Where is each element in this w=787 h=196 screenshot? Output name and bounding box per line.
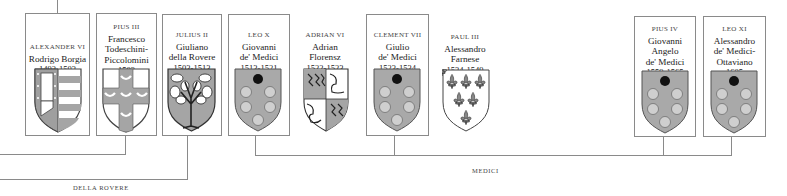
pope-title: PIUS IV bbox=[634, 24, 696, 35]
pope-name-line-2: Farnese bbox=[434, 54, 496, 65]
pope-title: ALEXANDER VI bbox=[25, 42, 90, 53]
della-rovere-horizontal bbox=[0, 179, 188, 180]
pope-name-line-2: de' Medici- bbox=[703, 46, 766, 57]
family-label-medici: MEDICI bbox=[472, 167, 499, 174]
piccolomini-coat-of-arms-icon bbox=[102, 68, 150, 133]
della-rovere-drop bbox=[187, 135, 188, 180]
piccolomini-drop bbox=[125, 135, 126, 155]
medici-drop-clement-vii bbox=[394, 135, 395, 156]
family-label-della-rovere: DELLA ROVERE bbox=[73, 184, 129, 191]
pope-name-line-1: Francesco bbox=[96, 34, 157, 45]
medici-drop-leo-x bbox=[255, 135, 256, 156]
medici-drop-leo-xi bbox=[731, 136, 732, 156]
medici-horizontal bbox=[255, 155, 732, 156]
pope-title: LEO X bbox=[228, 30, 290, 41]
pope-adrian-vi: ADRIAN VI Adrian Florensz 1522-1523 bbox=[294, 30, 356, 73]
pope-title: CLEMENT VII bbox=[366, 30, 429, 41]
pope-name-line-2: Florensz bbox=[294, 52, 356, 63]
pope-leo-x: LEO X Giovanni de' Medici 1513-1521 bbox=[228, 30, 290, 73]
pope-name-line-3: Ottaviano bbox=[703, 57, 766, 68]
medici-palle-coat-of-arms-icon bbox=[641, 70, 689, 134]
pope-name-line-1: Giovanni bbox=[228, 42, 290, 53]
medici-drop-pius-iv bbox=[663, 136, 664, 156]
pope-name: Rodrigo Borgia bbox=[25, 54, 90, 65]
pope-clement-vii: CLEMENT VII Giulio de' Medici 1523-1534 bbox=[366, 30, 429, 73]
pope-name-line-1: Adrian bbox=[294, 42, 356, 53]
pope-name-line-2: Angelo bbox=[634, 46, 696, 57]
pope-name-line-1: Alessandro bbox=[434, 44, 496, 55]
pope-name-line-1: Giovanni bbox=[634, 36, 696, 47]
pope-title: ADRIAN VI bbox=[294, 30, 356, 41]
pope-name-line-2: Todeschini- bbox=[96, 44, 157, 55]
della-rovere-oak-tree-coat-of-arms-icon bbox=[167, 68, 216, 132]
medici-palle-coat-of-arms-icon bbox=[373, 68, 421, 132]
pope-name-line-3: de' Medici bbox=[634, 57, 696, 68]
piccolomini-horizontal bbox=[0, 154, 126, 155]
pope-name-line-1: Giulio bbox=[366, 42, 429, 53]
medici-palle-coat-of-arms-icon bbox=[234, 68, 282, 132]
pope-name-line-2: della Rovere bbox=[162, 52, 222, 63]
pope-title: PIUS III bbox=[96, 22, 157, 33]
pope-name-line-1: Giuliano bbox=[162, 42, 222, 53]
pope-name-line-1: Alessandro bbox=[703, 36, 766, 47]
pope-title: JULIUS II bbox=[162, 30, 222, 41]
pope-name-line-2: de' Medici bbox=[366, 52, 429, 63]
pope-julius-ii: JULIUS II Giuliano della Rovere 1503-151… bbox=[162, 30, 222, 73]
adrian-quartered-coat-of-arms-icon bbox=[303, 68, 349, 132]
borgia-top-connector bbox=[57, 0, 58, 14]
pope-title: PAUL III bbox=[434, 32, 496, 43]
pope-name-line-3: Piccolomini bbox=[96, 55, 157, 66]
medici-palle-coat-of-arms-icon bbox=[710, 70, 758, 134]
farnese-fleur-de-lis-coat-of-arms-icon bbox=[442, 69, 490, 132]
pope-title: LEO XI bbox=[703, 24, 766, 35]
pope-name-line-2: de' Medici bbox=[228, 52, 290, 63]
borgia-coat-of-arms-icon bbox=[34, 68, 82, 133]
